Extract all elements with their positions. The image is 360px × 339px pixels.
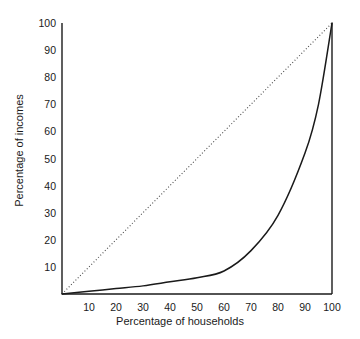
y-tick-label: 60 — [44, 126, 56, 137]
axis-spines — [62, 23, 332, 294]
x-tick-label: 40 — [164, 302, 176, 313]
y-tick-label: 100 — [38, 18, 56, 29]
y-tick-label: 40 — [44, 180, 56, 191]
lorenz-curve-chart: 102030405060708090100 102030405060708090… — [0, 0, 360, 339]
x-tick-label: 30 — [137, 302, 149, 313]
x-tick-label: 70 — [245, 302, 257, 313]
y-tick-label: 70 — [44, 99, 56, 110]
x-tick-label: 60 — [218, 302, 230, 313]
x-axis-title: Percentage of households — [0, 316, 360, 327]
y-tick-label: 10 — [44, 262, 56, 273]
x-tick-label: 50 — [191, 302, 203, 313]
y-tick-label: 50 — [44, 153, 56, 164]
y-tick-label: 20 — [44, 235, 56, 246]
data-series-group — [62, 23, 332, 294]
x-tick-label: 10 — [83, 302, 95, 313]
y-tick-label: 80 — [44, 72, 56, 83]
x-tick-label: 80 — [272, 302, 284, 313]
x-tick-label: 100 — [323, 302, 341, 313]
line-of-equality — [62, 23, 332, 294]
y-tick-label: 90 — [44, 45, 56, 56]
x-axis-title-text: Percentage of households — [116, 315, 244, 327]
x-tick-label: 90 — [299, 302, 311, 313]
y-tick-label: 30 — [44, 207, 56, 218]
lorenz-curve-line — [62, 23, 332, 294]
x-tick-label: 20 — [110, 302, 122, 313]
